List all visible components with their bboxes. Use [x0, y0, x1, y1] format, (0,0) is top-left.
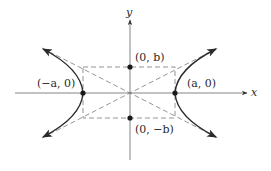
y-axis-label: y	[125, 6, 133, 19]
x-axis-label: x	[251, 86, 258, 99]
right-vertex-point	[172, 90, 177, 95]
left-vertex-point	[80, 90, 85, 95]
bottom-co-vertex-point	[127, 115, 132, 120]
left-vertex-label: (−a, 0)	[37, 77, 75, 90]
top-co-vertex-label: (0, b)	[135, 51, 165, 64]
right-branch-lower	[175, 93, 216, 137]
right-vertex-label: (a, 0)	[187, 77, 216, 90]
top-co-vertex-point	[127, 64, 132, 69]
bottom-co-vertex-label: (0, −b)	[135, 123, 174, 136]
hyperbola-diagram: y x (0, b) (0, −b) (−a, 0) (a, 0)	[0, 0, 271, 171]
left-branch-lower	[43, 93, 83, 137]
